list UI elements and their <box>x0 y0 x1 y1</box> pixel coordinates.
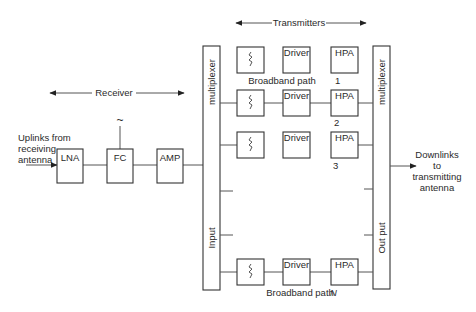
input-multiplexer: multiplexer Input <box>203 46 220 290</box>
input-mux-bottom-label: Input <box>206 227 217 248</box>
broadband-path-caption-1: Broadband path <box>248 75 316 86</box>
broadband-path-1: Driver HPA Broadband path 1 <box>237 47 358 86</box>
oscillator-icon: ~ <box>116 113 123 127</box>
path-index-3: 3 <box>333 160 338 171</box>
svg-text:HPA: HPA <box>335 47 354 58</box>
path-index-2: 2 <box>334 117 339 128</box>
svg-text:HPA: HPA <box>335 259 354 270</box>
broadband-path-2: Driver HPA 2 <box>220 90 373 128</box>
output-mux-bottom-label: Out put <box>376 222 387 254</box>
svg-text:Driver: Driver <box>284 132 309 143</box>
uplink-label-line-1: Uplinks from <box>18 132 71 143</box>
path-index-n: N <box>330 287 337 298</box>
svg-text:Driver: Driver <box>284 259 309 270</box>
output-mux-top-label: multiplexer <box>376 59 387 105</box>
svg-text:Driver: Driver <box>284 90 309 101</box>
broadband-path-3: Driver HPA 3 <box>220 132 373 171</box>
lna-block: LNA <box>57 149 83 183</box>
svg-text:HPA: HPA <box>335 90 354 101</box>
receiver-span-arrow: Receiver <box>50 87 184 98</box>
transmitters-label: Transmitters <box>273 17 326 28</box>
uplink-label-line-2: receiving <box>18 143 56 154</box>
path-index-1: 1 <box>335 75 340 86</box>
svg-text:AMP: AMP <box>160 152 181 163</box>
broadband-path-n: Driver HPA Broadband path N <box>220 259 373 298</box>
svg-text:HPA: HPA <box>335 132 354 143</box>
downlink-label-line-1: Downlinks <box>415 149 459 160</box>
svg-text:FC: FC <box>114 152 127 163</box>
amp-block: AMP <box>157 149 183 183</box>
transponder-diagram: Receiver Transmitters Uplinks from recei… <box>0 0 476 312</box>
downlink-label-line-4: antenna <box>420 182 455 193</box>
output-multiplexer: multiplexer Out put <box>373 46 390 289</box>
downlink-label-line-3: transmitting <box>412 171 461 182</box>
downlink-label-line-2: to <box>433 160 441 171</box>
input-mux-top-label: multiplexer <box>206 59 217 105</box>
svg-text:Driver: Driver <box>284 47 309 58</box>
uplink-label-line-3: antenna <box>18 154 53 165</box>
broadband-path-caption-n: Broadband path <box>266 287 334 298</box>
transmitters-span-arrow: Transmitters <box>236 17 366 28</box>
svg-text:LNA: LNA <box>61 152 80 163</box>
receiver-label: Receiver <box>95 87 133 98</box>
fc-block: FC <box>107 149 133 183</box>
